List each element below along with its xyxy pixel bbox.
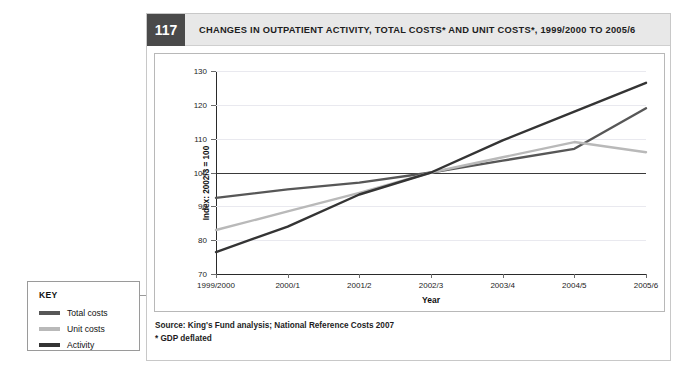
legend-item-activity: Activity (39, 337, 139, 353)
x-axis-label-3: 2002/3 (419, 281, 443, 290)
legend-swatch-activity (39, 343, 60, 346)
x-tick-4 (503, 274, 504, 278)
legend-label-activity: Activity (67, 340, 94, 350)
x-axis-label-1: 2000/1 (275, 281, 299, 290)
x-axis-label-5: 2004/5 (562, 281, 586, 290)
y-axis-label-100: 100 (194, 168, 207, 177)
x-axis-label-2: 2001/2 (347, 281, 371, 290)
legend-label-unit-costs: Unit costs (67, 324, 105, 334)
source-note: Source: King's Fund analysis; National R… (155, 320, 394, 345)
series-lines (216, 71, 646, 274)
series-line-total-costs (216, 108, 646, 198)
x-axis-label-0: 1999/2000 (197, 281, 235, 290)
y-axis-label-90: 90 (198, 202, 207, 211)
x-tick-1 (288, 274, 289, 278)
legend-swatch-total-costs (39, 311, 60, 314)
series-line-unit-costs (216, 142, 646, 230)
figure-title-bar: 117 CHANGES IN OUTPATIENT ACTIVITY, TOTA… (147, 14, 670, 46)
plot-wrapper: Index: 2002/3 = 100 708090100110120130 1… (155, 54, 664, 311)
x-tick-2 (359, 274, 360, 278)
source-line-2: * GDP deflated (155, 333, 394, 346)
y-axis-label-110: 110 (194, 134, 207, 143)
x-tick-6 (646, 274, 647, 278)
chart-frame: Index: 2002/3 = 100 708090100110120130 1… (154, 53, 665, 312)
x-axis-label-4: 2003/4 (490, 281, 514, 290)
series-line-activity (216, 83, 646, 252)
x-axis-title: Year (216, 295, 646, 305)
legend-title: KEY (39, 290, 139, 300)
plot-area: 708090100110120130 1999/20002000/12001/2… (216, 71, 646, 274)
figure-panel: 117 CHANGES IN OUTPATIENT ACTIVITY, TOTA… (146, 13, 671, 361)
y-axis-label-80: 80 (198, 236, 207, 245)
x-axis-label-6: 2005/6 (634, 281, 658, 290)
y-axis-label-70: 70 (198, 270, 207, 279)
figure-title-text: CHANGES IN OUTPATIENT ACTIVITY, TOTAL CO… (185, 25, 635, 35)
y-axis-label-120: 120 (194, 100, 207, 109)
x-tick-5 (574, 274, 575, 278)
legend-item-unit-costs: Unit costs (39, 321, 139, 337)
x-tick-0 (216, 274, 217, 278)
legend-swatch-unit-costs (39, 327, 60, 330)
figure-number-badge: 117 (147, 14, 185, 46)
y-axis-label-130: 130 (194, 67, 207, 76)
chart-legend-key: KEY Total costs Unit costs Activity (27, 281, 140, 351)
legend-item-total-costs: Total costs (39, 305, 139, 321)
x-tick-3 (431, 274, 432, 278)
source-line-1: Source: King's Fund analysis; National R… (155, 320, 394, 333)
legend-label-total-costs: Total costs (67, 308, 108, 318)
